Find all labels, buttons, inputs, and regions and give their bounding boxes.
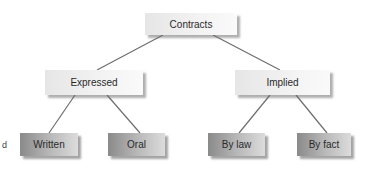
node-label: By law: [222, 139, 251, 150]
node-by-fact: By fact: [297, 133, 351, 156]
cropped-text-fragment: d: [2, 140, 7, 150]
node-oral: Oral: [108, 133, 165, 156]
node-label: By fact: [309, 139, 340, 150]
node-by-law: By law: [208, 133, 265, 156]
node-label: Contracts: [170, 19, 213, 30]
node-expressed: Expressed: [45, 70, 143, 95]
node-label: Written: [33, 139, 65, 150]
node-implied: Implied: [235, 70, 330, 95]
node-label: Expressed: [70, 77, 117, 88]
node-label: Implied: [266, 77, 298, 88]
node-label: Oral: [127, 139, 146, 150]
node-contracts: Contracts: [145, 13, 237, 35]
node-written: Written: [20, 133, 78, 156]
